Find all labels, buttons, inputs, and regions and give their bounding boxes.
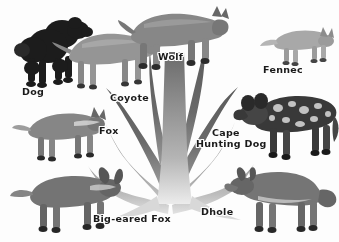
animal-dhole (228, 162, 338, 238)
animal-wolf (118, 2, 230, 74)
label-wolf: Wolf (158, 51, 183, 62)
label-coyote: Coyote (110, 92, 149, 103)
label-fennec: Fennec (263, 64, 303, 75)
animal-cape-hunting-dog (228, 86, 338, 164)
label-dhole: Dhole (201, 206, 233, 217)
label-fox: Fox (99, 125, 119, 136)
label-cape-hunting-dog-line1: Cape (212, 127, 240, 138)
label-big-eared-fox: Big-eared Fox (93, 213, 171, 224)
animal-big-eared-fox (10, 164, 128, 236)
label-dog: Dog (22, 86, 44, 97)
animal-fox (12, 104, 110, 164)
canid-family-tree-figure: Dog Coyote Wolf Fennec Fox Cape Hunting … (0, 0, 339, 242)
animal-fennec (260, 24, 336, 68)
label-cape-hunting-dog-line2: Hunting Dog (196, 138, 267, 149)
